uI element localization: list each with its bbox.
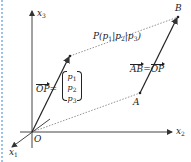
left-paren (62, 71, 67, 101)
point-b-label: B (175, 4, 182, 13)
column-vector: p1 p2 p3 (67, 72, 77, 105)
point-b (177, 16, 180, 19)
origin-label: O (34, 135, 41, 144)
x1-axis-label: x1 (9, 148, 18, 158)
point-a-label: A (133, 98, 140, 107)
point-p-label: P(p1|p2|p3) (93, 32, 141, 42)
point-p (69, 55, 72, 58)
vector-ab-equation: AB=OP (130, 65, 164, 74)
vector-ab (140, 18, 177, 93)
diagram-canvas (0, 0, 191, 162)
x1-axis (12, 119, 50, 147)
x3-axis-label: x3 (37, 9, 46, 19)
right-paren (77, 71, 82, 101)
x2-axis-label: x2 (176, 127, 185, 137)
point-a (139, 92, 142, 95)
vector-op-label: OP= (36, 85, 57, 94)
vector-diagram: x3 x2 x1 O A B P(p1|p2|p3) OP= p1 p2 p3 … (0, 0, 191, 162)
